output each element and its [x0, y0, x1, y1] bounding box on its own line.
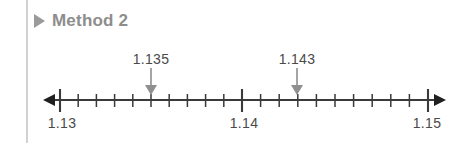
- axis-tick-label-1: 1.13: [48, 115, 76, 131]
- marker-arrow-2: [291, 68, 303, 95]
- number-line: 1.135 1.143 1.13 1.14 1.15: [0, 0, 461, 143]
- axis-tick-label-2: 1.14: [230, 115, 258, 131]
- axis-left-arrowhead: [43, 94, 55, 106]
- marker-label-1: 1.135: [133, 51, 170, 67]
- marker-arrow-1: [145, 68, 157, 95]
- marker-label-2: 1.143: [279, 51, 316, 67]
- axis-tick-label-3: 1.15: [413, 115, 441, 131]
- axis-right-arrowhead: [434, 94, 446, 106]
- number-line-figure: Method 2: [0, 0, 461, 143]
